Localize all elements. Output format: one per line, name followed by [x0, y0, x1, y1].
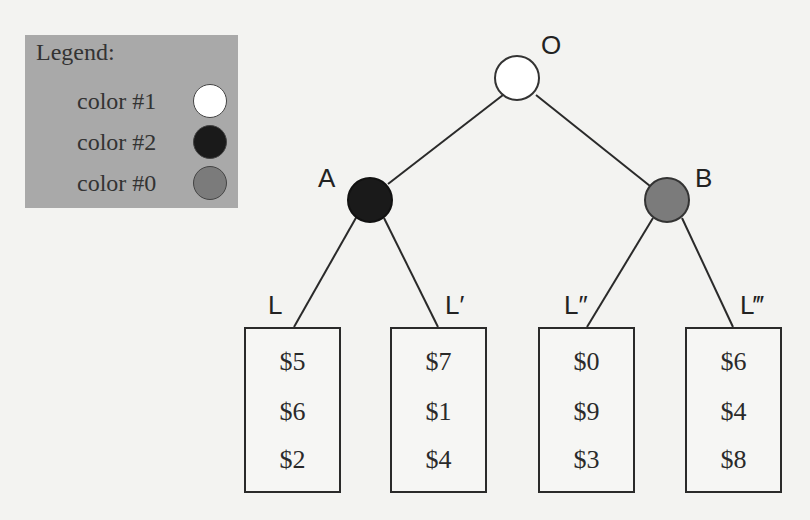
leaf-box-ldoubleprime: $0 $9 $3 [538, 327, 635, 493]
leaf-value: $9 [540, 397, 633, 427]
leaf-box-ltripleprime: $6 $4 $8 [685, 327, 782, 493]
leaf-value: $6 [246, 397, 339, 427]
leaf-value: $0 [540, 347, 633, 377]
node-b-label: B [695, 163, 712, 194]
legend-entry-color-1: color #1 [25, 82, 238, 122]
leaf-label-l: L [268, 290, 282, 321]
edge-a-l [294, 216, 357, 327]
leaf-box-lprime: $7 $1 $4 [390, 327, 487, 493]
leaf-value: $4 [687, 397, 780, 427]
leaf-box-l: $5 $6 $2 [244, 327, 341, 493]
leaf-value: $7 [392, 347, 485, 377]
node-o-label: O [541, 30, 561, 61]
node-a-label: A [318, 163, 335, 194]
edge-o-b [536, 95, 650, 186]
leaf-value: $4 [392, 445, 485, 475]
legend-entry-color-0: color #0 [25, 164, 238, 204]
leaf-value: $6 [687, 347, 780, 377]
legend-label: color #2 [77, 129, 156, 156]
edge-b-ldoubleprime [587, 218, 653, 327]
edge-o-a [388, 95, 503, 184]
legend-label: color #1 [77, 88, 156, 115]
legend-entry-color-2: color #2 [25, 123, 238, 163]
leaf-value: $8 [687, 445, 780, 475]
node-b-circle [645, 178, 689, 222]
legend-label: color #0 [77, 170, 156, 197]
leaf-value: $3 [540, 445, 633, 475]
legend-title: Legend: [36, 39, 115, 66]
white-circle-icon [193, 84, 227, 118]
leaf-value: $2 [246, 445, 339, 475]
node-a-circle [348, 178, 392, 222]
leaf-value: $1 [392, 397, 485, 427]
node-o-circle [495, 56, 539, 100]
edge-b-ltripleprime [682, 218, 733, 327]
leaf-label-ldoubleprime: L″ [564, 290, 588, 321]
black-circle-icon [193, 125, 227, 159]
legend: Legend: color #1 color #2 color #0 [25, 35, 238, 208]
leaf-label-lprime: L′ [445, 290, 464, 321]
leaf-value: $5 [246, 347, 339, 377]
gray-circle-icon [193, 166, 227, 200]
leaf-label-ltripleprime: L‴ [740, 290, 764, 321]
edge-a-lprime [384, 218, 438, 327]
